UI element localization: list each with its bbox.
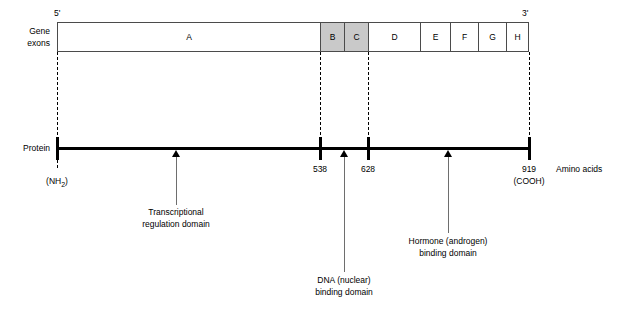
- arrow-head-transcriptional-icon: [172, 150, 180, 157]
- protein-tick-628: [367, 137, 370, 160]
- n-terminus-label: (NH2): [46, 176, 68, 190]
- exon-segment-d: D: [368, 23, 420, 51]
- domain-label-dna-line2: binding domain: [284, 287, 404, 298]
- dashed-connector-start: [57, 52, 58, 145]
- exon-label-b: B: [330, 32, 336, 42]
- dashed-connector-end: [529, 52, 530, 145]
- domain-label-hormone-line2: binding domain: [378, 248, 518, 259]
- protein-tick-start: [56, 137, 59, 160]
- exon-segment-b: B: [320, 23, 344, 51]
- gene-exons-label-line1: Gene: [29, 26, 50, 37]
- exon-segment-h: H: [506, 23, 528, 51]
- callout-line-hormone: [448, 157, 449, 233]
- dashed-stub-nh2: [57, 160, 58, 168]
- protein-bar: [57, 147, 529, 150]
- five-prime-label: 5': [54, 8, 60, 19]
- amino-acids-caption: Amino acids: [556, 164, 602, 175]
- exon-label-c: C: [353, 32, 359, 42]
- amino-acid-position-628: 628: [361, 164, 375, 175]
- exon-segment-g: G: [478, 23, 506, 51]
- exon-label-h: H: [514, 32, 520, 42]
- callout-line-dna: [344, 157, 345, 272]
- arrow-head-hormone-icon: [444, 150, 452, 157]
- exon-label-e: E: [433, 32, 439, 42]
- exon-label-a: A: [186, 32, 192, 42]
- callout-line-transcriptional: [176, 157, 177, 205]
- exon-segment-a: A: [58, 23, 320, 51]
- domain-label-transcriptional-line1: Transcriptional: [116, 207, 236, 218]
- domain-label-transcriptional-line2: regulation domain: [116, 219, 236, 230]
- three-prime-label: 3': [522, 8, 528, 19]
- protein-tick-919: [528, 137, 531, 160]
- exon-segment-e: E: [420, 23, 450, 51]
- dashed-connector-538: [320, 52, 321, 145]
- amino-acid-position-919: 919: [522, 164, 536, 175]
- c-terminus-label: (COOH): [513, 176, 544, 187]
- dashed-connector-628: [368, 52, 369, 145]
- domain-label-hormone-line1: Hormone (androgen): [378, 236, 518, 247]
- protein-label: Protein: [23, 143, 50, 154]
- exon-segment-f: F: [450, 23, 478, 51]
- n-terminus-text: (NH: [46, 176, 61, 186]
- gene-exon-bar: A B C D E F G H: [57, 22, 529, 52]
- amino-acid-position-538: 538: [313, 164, 327, 175]
- n-terminus-paren: ): [65, 176, 68, 186]
- exon-label-d: D: [391, 32, 397, 42]
- exon-label-f: F: [462, 32, 467, 42]
- arrow-head-dna-icon: [340, 150, 348, 157]
- exon-label-g: G: [489, 32, 496, 42]
- gene-protein-diagram: Gene exons 5' 3' A B C D E F G H Pr: [0, 0, 623, 322]
- protein-tick-538: [319, 137, 322, 160]
- exon-segment-c: C: [344, 23, 368, 51]
- gene-exons-label-line2: exons: [27, 38, 50, 49]
- domain-label-dna-line1: DNA (nuclear): [284, 275, 404, 286]
